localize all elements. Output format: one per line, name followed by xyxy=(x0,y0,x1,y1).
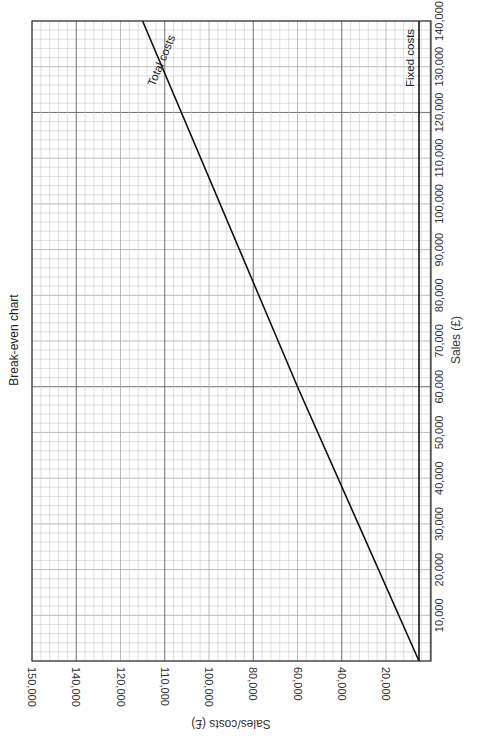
y-tick-label: 150,000 xyxy=(26,667,38,707)
y-tick-label: 140,000 xyxy=(70,667,82,707)
x-tick-label: 60,000 xyxy=(433,370,445,404)
y-tick-label: 80,000 xyxy=(247,667,259,701)
y-tick-label: 40,000 xyxy=(336,667,348,701)
x-tick-label: 90,000 xyxy=(433,233,445,267)
break-even-chart: 10,00020,00030,00040,00050,00060,00070,0… xyxy=(0,0,480,742)
fixed-costs-label: Fixed costs xyxy=(404,29,416,87)
y-tick-label: 60,000 xyxy=(292,667,304,701)
y-axis-ticks: 20,00040,00060,00080,000100,000110,00012… xyxy=(26,667,392,707)
y-tick-label: 100,000 xyxy=(203,667,215,707)
x-tick-label: 40,000 xyxy=(433,461,445,495)
chart-title: Break-even chart xyxy=(7,294,21,386)
x-tick-label: 20,000 xyxy=(433,553,445,587)
x-tick-label: 10,000 xyxy=(433,598,445,632)
x-tick-label: 140,000 xyxy=(433,1,445,41)
y-tick-label: 120,000 xyxy=(115,667,127,707)
x-tick-label: 50,000 xyxy=(433,416,445,450)
x-tick-label: 110,000 xyxy=(433,139,445,178)
y-axis-label: Sales/costs (£) xyxy=(191,717,270,731)
x-tick-label: 100,000 xyxy=(433,184,445,224)
x-tick-label: 80,000 xyxy=(433,278,445,312)
y-tick-label: 110,000 xyxy=(159,667,171,706)
x-tick-label: 70,000 xyxy=(433,324,445,358)
x-tick-label: 130,000 xyxy=(433,47,445,87)
x-axis-ticks: 10,00020,00030,00040,00050,00060,00070,0… xyxy=(433,1,445,632)
x-tick-label: 120,000 xyxy=(433,93,445,133)
chart-grid xyxy=(32,21,431,661)
x-tick-label: 30,000 xyxy=(433,507,445,541)
x-axis-label: Sales (£) xyxy=(449,316,463,364)
total-costs-label: Total costs xyxy=(145,33,177,88)
y-tick-label: 20,000 xyxy=(380,667,392,701)
